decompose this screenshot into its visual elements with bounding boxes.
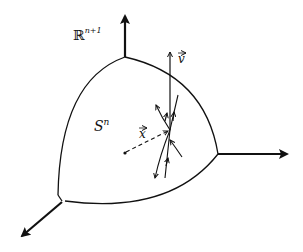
flow-line-1 xyxy=(156,105,170,130)
position-vector xyxy=(126,131,168,152)
flow-line-4 xyxy=(170,140,182,157)
sphere-label: Sn xyxy=(94,117,110,134)
flow-arrowhead-top2 xyxy=(173,112,174,121)
flow-arrowhead-top xyxy=(165,113,167,121)
sphere-arc-left xyxy=(58,57,125,195)
sphere-arc-bottom xyxy=(65,154,218,204)
ambient-space-label: ℝn+1 xyxy=(73,26,102,43)
position-vector-label: x xyxy=(139,127,146,141)
sphere-diagram: ℝn+1 Sn x v xyxy=(0,0,303,252)
sphere-corner-notch xyxy=(58,195,62,201)
velocity-vector-label: v xyxy=(178,52,185,66)
y-axis-arrow xyxy=(22,202,62,236)
